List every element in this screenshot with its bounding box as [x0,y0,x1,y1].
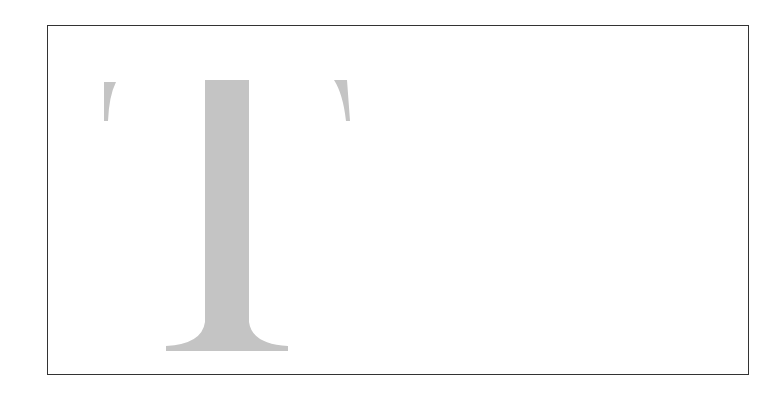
right-serif [334,80,350,121]
stem [166,80,288,351]
left-serif [104,82,116,121]
letter-t-glyph [0,0,769,411]
